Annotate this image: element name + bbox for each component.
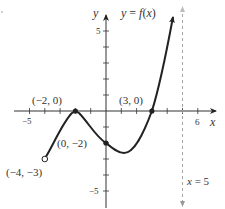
asymptote-label: x = 5 [186, 175, 210, 187]
curve-title: y = f(x) [120, 6, 156, 20]
open-point-neg4-neg3 [42, 156, 48, 162]
y-tick-label-max: 5 [96, 26, 101, 36]
x-tick-label-max: 6 [195, 117, 200, 127]
asymptote-x-5: x = 5 [180, 6, 210, 207]
label-neg2-0: (−2, 0) [32, 94, 62, 107]
point-neg2-0 [73, 108, 78, 113]
function-graph: −5 6 x 5 −5 y x = 5 (−2, [0, 0, 225, 209]
label-0-neg2: (0, −2) [57, 137, 87, 150]
point-3-0 [149, 108, 154, 113]
label-neg4-neg3: (−4, −3) [6, 166, 43, 179]
y-axis-label: y [92, 6, 99, 20]
x-axis: −5 6 x [14, 108, 216, 129]
x-axis-label: x [209, 115, 216, 129]
point-0-neg2 [103, 140, 108, 145]
y-tick-label-min: −5 [89, 186, 99, 196]
label-3-0: (3, 0) [119, 94, 143, 107]
x-tick-label-min: −5 [22, 116, 32, 126]
artifact-dot [1, 11, 3, 13]
y-axis: 5 −5 y [89, 6, 109, 208]
